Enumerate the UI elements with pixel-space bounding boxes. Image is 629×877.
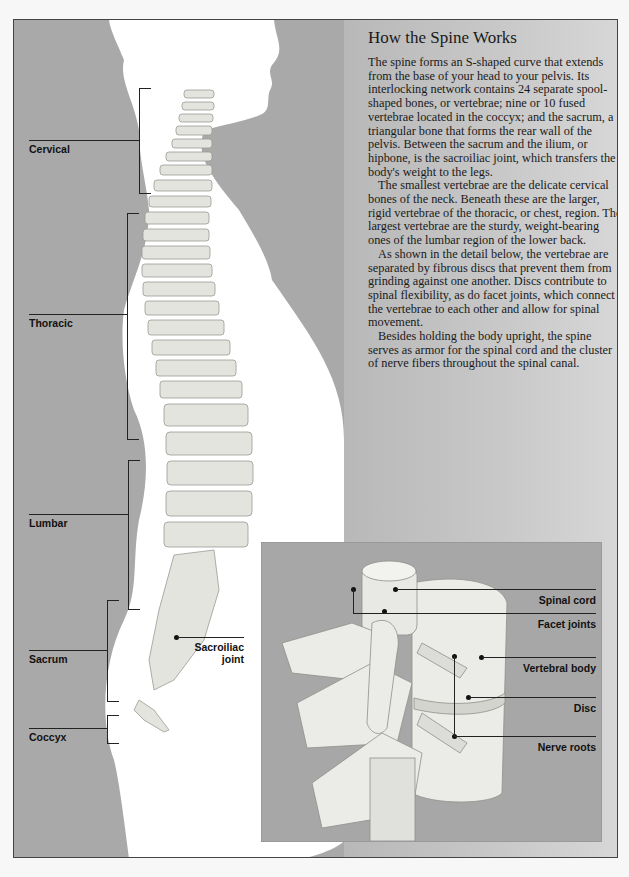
bracket-tick	[107, 743, 119, 744]
nerve-roots-connector	[454, 656, 455, 736]
bracket-tick	[139, 193, 151, 194]
nerve-roots-leader-line	[454, 736, 596, 737]
article-paragraph: As shown in the detail below, the verteb…	[368, 248, 618, 330]
bracket-tick	[107, 600, 119, 601]
label-sacrum: Sacrum	[29, 653, 68, 665]
bracket-tick	[128, 460, 140, 461]
sacroiliac-leader-line	[177, 637, 244, 638]
cervical-leader-line	[29, 140, 139, 141]
bracket-tick	[128, 609, 140, 610]
coccyx-leader-line	[29, 728, 107, 729]
lumbar-leader-line	[29, 514, 128, 515]
label-lumbar: Lumbar	[29, 517, 68, 529]
bracket-tick	[107, 701, 119, 702]
article-body: The spine forms an S-shaped curve that e…	[368, 56, 618, 371]
label-spinal-cord: Spinal cord	[494, 594, 596, 606]
facet-joints-connector	[353, 589, 354, 613]
label-nerve-roots: Nerve roots	[494, 741, 596, 753]
thoracic-bracket	[127, 213, 128, 439]
cervical-bracket	[139, 88, 140, 193]
bracket-tick	[139, 88, 151, 89]
thoracic-leader-line	[29, 314, 127, 315]
bracket-tick	[127, 439, 139, 440]
coccyx-bracket	[107, 715, 108, 743]
label-sacroiliac-joint: Sacroiliac joint	[194, 641, 244, 665]
article-paragraph: The spine forms an S-shaped curve that e…	[368, 56, 618, 179]
label-sacroiliac-line2: joint	[194, 653, 244, 665]
sacrum-bracket	[107, 600, 108, 701]
vertebrae-detail-inset	[261, 542, 602, 842]
label-cervical: Cervical	[29, 143, 70, 155]
vertebral-body-leader-line	[482, 657, 596, 658]
bracket-tick	[107, 715, 119, 716]
label-vertebral-body: Vertebral body	[484, 662, 596, 674]
label-facet-joints: Facet joints	[494, 618, 596, 630]
label-thoracic: Thoracic	[29, 317, 73, 329]
sacrum-leader-line	[29, 650, 107, 651]
diagram-frame: Cervical Thoracic Lumbar Sacrum Coccyx S…	[13, 19, 618, 858]
facet-joints-leader-line	[353, 613, 596, 614]
article-paragraph: The smallest vertebrae are the delicate …	[368, 179, 618, 248]
vertebrae-detail-illustration	[262, 543, 601, 841]
article-paragraph: Besides holding the body upright, the sp…	[368, 330, 618, 371]
label-disc: Disc	[494, 702, 596, 714]
article-title: How the Spine Works	[368, 28, 517, 48]
spinal-cord-leader-line	[396, 589, 596, 590]
lumbar-bracket	[128, 460, 129, 609]
disc-leader-line	[469, 697, 596, 698]
label-coccyx: Coccyx	[29, 731, 66, 743]
label-sacroiliac-line1: Sacroiliac	[194, 641, 244, 653]
bracket-tick	[127, 213, 139, 214]
